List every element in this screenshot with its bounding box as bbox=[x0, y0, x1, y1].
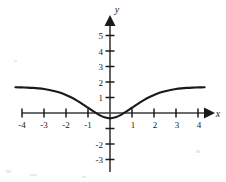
y-label-neg3: -3 bbox=[96, 155, 104, 165]
scan-speckle bbox=[30, 174, 37, 176]
y-label-4: 4 bbox=[99, 47, 104, 57]
scan-speckle bbox=[6, 170, 11, 173]
x-label-1: 1 bbox=[131, 120, 136, 130]
x-label-neg2: -2 bbox=[62, 120, 70, 130]
scan-speckle bbox=[82, 176, 86, 178]
y-label-neg2: -2 bbox=[96, 140, 104, 150]
scan-speckle bbox=[196, 150, 200, 153]
y-label-3: 3 bbox=[99, 62, 104, 72]
y-label-2: 2 bbox=[99, 78, 104, 88]
y-axis-arrowhead bbox=[105, 15, 116, 26]
x-label-neg3: -3 bbox=[40, 120, 48, 130]
scan-speckle bbox=[14, 60, 17, 62]
y-tick-labels: 5 4 3 2 1 -2 -3 bbox=[96, 31, 104, 165]
y-label-5: 5 bbox=[99, 31, 104, 41]
plot-figure: -4 -3 -2 -1 1 2 3 4 5 4 3 2 1 -2 -3 x y bbox=[0, 0, 226, 182]
x-label-neg4: -4 bbox=[18, 120, 26, 130]
y-axis-label: y bbox=[114, 4, 120, 15]
x-label-3: 3 bbox=[175, 120, 180, 130]
x-axis-label: x bbox=[215, 108, 221, 119]
y-label-1: 1 bbox=[99, 93, 104, 103]
x-label-4: 4 bbox=[197, 120, 202, 130]
x-label-neg1: -1 bbox=[84, 120, 92, 130]
plot-svg: -4 -3 -2 -1 1 2 3 4 5 4 3 2 1 -2 -3 x y bbox=[0, 0, 226, 182]
x-label-2: 2 bbox=[153, 120, 158, 130]
x-axis-arrowhead bbox=[204, 108, 215, 119]
